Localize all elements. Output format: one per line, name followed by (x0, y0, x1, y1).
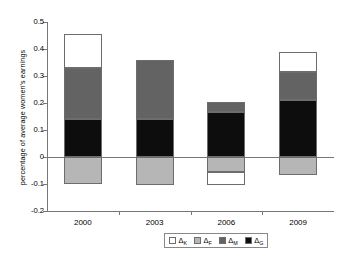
y-tick-label: 0.5 (33, 17, 44, 26)
bar-segment (279, 100, 317, 157)
bar-segment (207, 112, 245, 157)
legend-swatch (219, 237, 226, 244)
legend-label: ΔM (228, 236, 237, 245)
chart-legend: ΔKΔFΔMΔG (164, 233, 268, 248)
legend-item: ΔM (219, 236, 238, 245)
bar-segment (279, 72, 317, 100)
legend-swatch (169, 237, 176, 244)
bar-segment (207, 157, 245, 172)
bar-segment (136, 60, 174, 119)
bar-segment (64, 34, 102, 68)
legend-label: ΔF (204, 236, 212, 245)
y-tick-label: -0.1 (31, 179, 44, 188)
bar-segment (64, 68, 102, 119)
legend-label: ΔG (254, 236, 263, 245)
x-tick-label: 2006 (206, 218, 246, 227)
legend-item: ΔF (194, 236, 212, 245)
x-tick-mark (191, 211, 192, 215)
bar-segment (136, 157, 174, 185)
legend-swatch (245, 237, 252, 244)
y-tick-label: 0.3 (33, 71, 44, 80)
bar-segment (64, 157, 102, 184)
legend-label: ΔK (179, 236, 188, 245)
legend-item: ΔG (245, 236, 264, 245)
x-tick-label: 2003 (135, 218, 175, 227)
bar-segment (279, 52, 317, 72)
y-tick-label: 0 (40, 152, 44, 161)
bar-segment (207, 102, 245, 113)
bar-segment (279, 157, 317, 175)
bar-segment (64, 119, 102, 157)
bar-group (136, 22, 174, 211)
x-tick-label: 2009 (278, 218, 318, 227)
bar-group (64, 22, 102, 211)
y-axis-title: percentage of average women's earnings (18, 23, 27, 213)
plot-area: -0.2-0.100.10.20.30.40.5 200020032006200… (47, 22, 334, 211)
bar-segment (136, 119, 174, 157)
x-tick-label: 2000 (63, 218, 103, 227)
y-tick-label: 0.2 (33, 98, 44, 107)
bar-segment (207, 172, 245, 186)
bar-group (279, 22, 317, 211)
bar-group (207, 22, 245, 211)
x-tick-mark (119, 211, 120, 215)
legend-swatch (194, 237, 201, 244)
y-tick-label: 0.1 (33, 125, 44, 134)
y-tick-label: 0.4 (33, 44, 44, 53)
y-tick-label: -0.2 (31, 206, 44, 215)
legend-item: ΔK (169, 236, 187, 245)
y-axis-line (47, 22, 48, 211)
x-tick-mark (262, 211, 263, 215)
chart-figure: percentage of average women's earnings -… (0, 0, 354, 259)
